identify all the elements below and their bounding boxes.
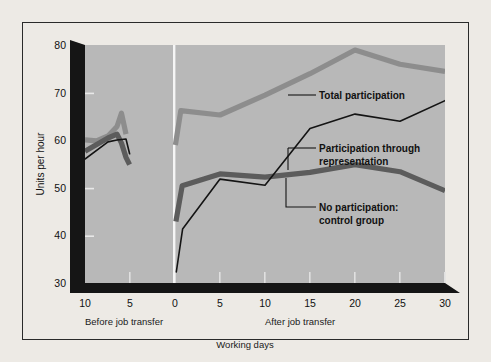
y-tick-40: 40 <box>54 229 66 241</box>
x-tick-after-20: 20 <box>349 297 361 309</box>
line-chart: 80 70 60 50 40 30 Units per hour 10 5 0 … <box>0 0 491 362</box>
x-tick-after-30: 30 <box>439 297 451 309</box>
y-tick-70: 70 <box>54 87 66 99</box>
y-tick-60: 60 <box>54 134 66 146</box>
x-tick-before-5: 5 <box>127 297 133 309</box>
section-label-before: Before job transfer <box>85 316 163 327</box>
annotation-control-group-line2: control group <box>319 215 384 226</box>
section-label-after: After job transfer <box>265 316 335 327</box>
y-tick-30: 30 <box>54 277 66 289</box>
y-tick-80: 80 <box>54 39 66 51</box>
x-tick-after-15: 15 <box>304 297 316 309</box>
x-tick-after-10: 10 <box>259 297 271 309</box>
annotation-representation-line2: representation <box>319 156 388 167</box>
x-tick-after-5: 5 <box>217 297 223 309</box>
y-tick-50: 50 <box>54 182 66 194</box>
x-tick-after-25: 25 <box>394 297 406 309</box>
annotation-control-group-line1: No participation: <box>319 202 398 213</box>
annotation-representation-line1: Participation through <box>319 143 420 154</box>
y-axis-title: Units per hour <box>35 132 46 195</box>
x-tick-before-10: 10 <box>79 297 91 309</box>
figure-root: 80 70 60 50 40 30 Units per hour 10 5 0 … <box>0 0 491 362</box>
plot-area-background <box>85 45 445 283</box>
x-tick-0: 0 <box>172 297 178 309</box>
annotation-total-participation: Total participation <box>319 90 405 101</box>
x-axis-title: Working days <box>216 339 274 350</box>
job-transfer-divider <box>173 45 175 283</box>
